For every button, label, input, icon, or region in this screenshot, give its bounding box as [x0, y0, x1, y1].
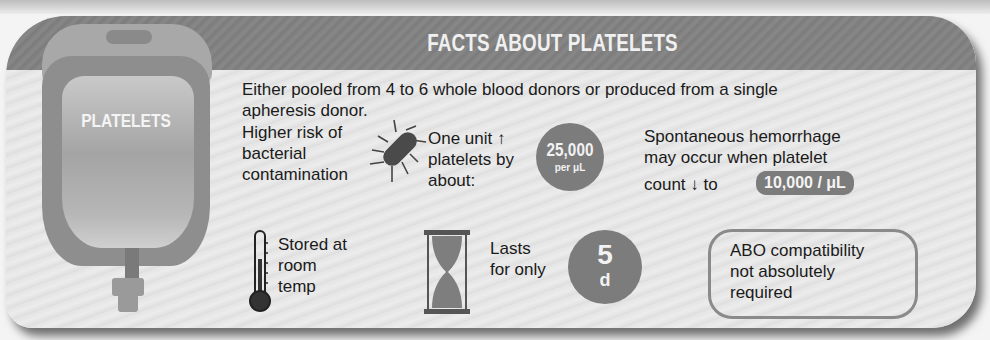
abo-line-2: not absolutely [730, 261, 835, 282]
hourglass-icon [424, 230, 470, 314]
unit-increase-line-1: One unit ↑ [428, 128, 506, 149]
storage-line-2: room [278, 255, 317, 276]
storage-line-3: temp [278, 276, 316, 297]
hemorrhage-line-1: Spontaneous hemorrhage [644, 126, 841, 147]
bacterial-line-3: contamination [242, 164, 348, 185]
abo-line-1: ABO compatibility [730, 240, 864, 261]
blood-bag-inner [62, 76, 194, 248]
top-strip [0, 0, 990, 14]
shelf-life-badge: 5 d [568, 230, 642, 304]
hemorrhage-line-3: count ↓ to [644, 174, 718, 195]
platelets-facts-card: PLATELETS FACTS ABOUT PLATELETS Either p… [6, 16, 976, 328]
shelf-life-line-2: for only [490, 259, 546, 280]
shelf-life-line-1: Lasts [490, 238, 531, 259]
abo-line-3: required [730, 282, 792, 303]
unit-increase-line-3: about: [428, 170, 475, 191]
thermometer-icon [248, 229, 272, 315]
platelet-increase-value: 25,000 [541, 140, 599, 161]
intro-line-2: apheresis donor. [242, 100, 368, 121]
bacterial-line-2: bacterial [242, 143, 306, 164]
platelet-increase-badge: 25,000 per μL [536, 123, 604, 191]
card-title: FACTS ABOUT PLATELETS [93, 30, 888, 57]
platelet-increase-unit: per μL [536, 162, 604, 173]
bacterial-line-1: Higher risk of [242, 122, 342, 143]
storage-line-1: Stored at [278, 234, 347, 255]
blood-bag-port-tip [118, 294, 138, 312]
hemorrhage-threshold-badge: 10,000 / μL [756, 171, 854, 195]
shelf-life-unit: d [568, 270, 642, 290]
bag-label: PLATELETS [57, 110, 195, 132]
shelf-life-value: 5 [568, 240, 642, 270]
hemorrhage-line-2: may occur when platelet [644, 147, 827, 168]
unit-increase-line-2: platelets by [428, 149, 514, 170]
blood-bag-tube [125, 248, 139, 278]
bacterium-icon [366, 118, 430, 184]
intro-line-1: Either pooled from 4 to 6 whole blood do… [242, 79, 778, 100]
